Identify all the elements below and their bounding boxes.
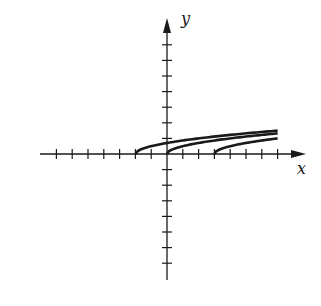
y-axis-label: y	[180, 9, 191, 28]
curves	[135, 131, 277, 154]
coordinate-plane-figure: y x	[0, 0, 321, 306]
y-axis-arrow-icon	[163, 18, 171, 33]
x-axis-arrow-icon	[291, 150, 306, 158]
plot-canvas: y x	[0, 0, 321, 306]
x-axis-label: x	[297, 159, 306, 178]
